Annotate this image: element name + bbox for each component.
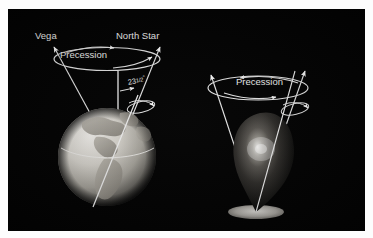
top-highlight-core [255,144,267,154]
figure-plate: Vega North Star Precession Precession 23… [8,9,365,231]
label-precession-earth: Precession [60,50,107,60]
page-bleed-text [0,0,373,9]
label-precession-top: Precession [236,77,283,87]
earth-group [54,47,160,207]
label-vega: Vega [35,31,57,41]
precession-arrow-top-lower [224,93,276,98]
top-group [208,71,310,219]
tilt-angle-arrow [120,88,134,91]
tilt-degree-symbol: ° [142,74,145,80]
figure-artwork [8,9,365,231]
label-north-star: North Star [116,31,159,41]
spinning-top-body [233,112,294,212]
scanned-page: Vega North Star Precession Precession 23… [0,0,373,238]
